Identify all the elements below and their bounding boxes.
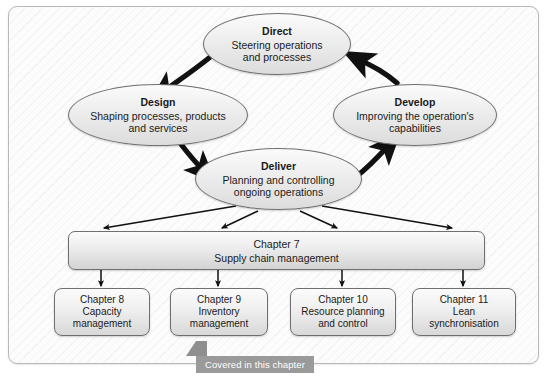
chapter-box-9-number: Chapter 9 xyxy=(197,294,241,306)
chapter-box-11-topic: Lean synchronisation xyxy=(429,306,498,330)
covered-in-this-chapter-banner: Covered in this chapter xyxy=(196,356,314,373)
node-design-description: Shaping processes, products and services xyxy=(84,110,231,135)
chapter-box-8: Chapter 8 Capacity management xyxy=(54,288,150,336)
covered-in-this-chapter-label: Covered in this chapter xyxy=(205,359,305,370)
node-deliver-title: Deliver xyxy=(261,160,296,173)
ribbon-fold-block xyxy=(196,341,207,356)
chapter-7-number: Chapter 7 xyxy=(253,237,299,251)
chapter-box-11-number: Chapter 11 xyxy=(440,294,489,306)
node-deliver-description: Planning and controlling ongoing operati… xyxy=(216,174,340,199)
chapter-box-9-topic: Inventory management xyxy=(190,306,248,330)
node-develop-title: Develop xyxy=(395,96,436,109)
chapter-box-8-topic: Capacity management xyxy=(73,306,131,330)
node-deliver: Deliver Planning and controlling ongoing… xyxy=(195,148,362,210)
node-direct: Direct Steering operations and processes xyxy=(203,13,351,75)
chapter-box-8-number: Chapter 8 xyxy=(80,294,124,306)
chapter-7-topic: Supply chain management xyxy=(214,251,338,265)
chapter-box-11: Chapter 11 Lean synchronisation xyxy=(412,288,516,336)
node-direct-description: Steering operations and processes xyxy=(225,39,328,64)
node-develop: Develop Improving the operation's capabi… xyxy=(333,84,497,146)
node-develop-description: Improving the operation's capabilities xyxy=(350,110,480,135)
chapter-box-10: Chapter 10 Resource planning and control xyxy=(290,288,396,336)
node-direct-title: Direct xyxy=(262,25,292,38)
node-design-title: Design xyxy=(140,96,175,109)
ribbon-fold-icon xyxy=(186,341,196,356)
diagram-canvas: Direct Steering operations and processes… xyxy=(0,0,553,385)
chapter-box-10-topic: Resource planning and control xyxy=(301,306,384,330)
chapter-7-bar: Chapter 7 Supply chain management xyxy=(68,231,485,270)
chapter-box-10-number: Chapter 10 xyxy=(318,294,367,306)
chapter-box-9: Chapter 9 Inventory management xyxy=(170,288,268,336)
node-design: Design Shaping processes, products and s… xyxy=(68,84,248,146)
